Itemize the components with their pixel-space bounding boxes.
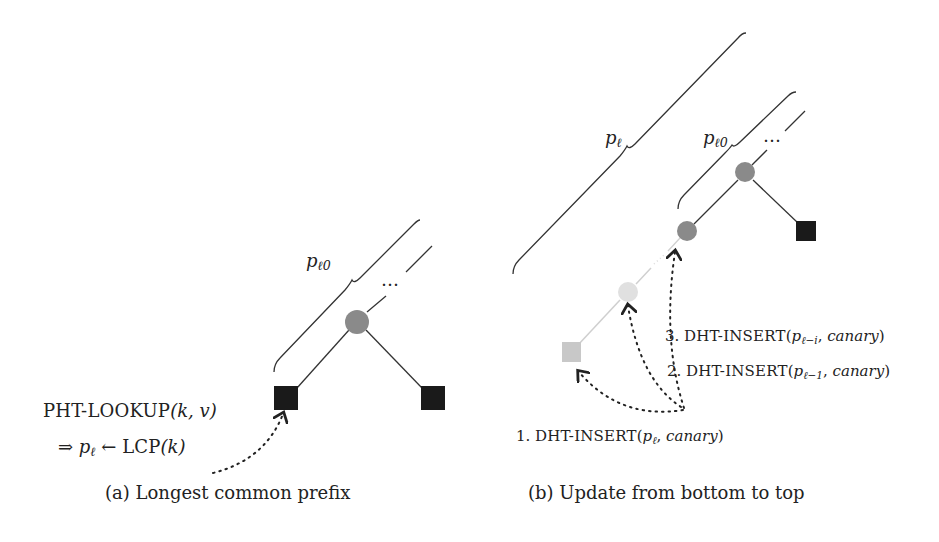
diagram-canvas [0,0,939,542]
step-3-label: 3. DHT-INSERT(pℓ−i, canary) [665,327,885,346]
edge-up-right [752,150,767,165]
lookup-arrow [213,414,283,473]
edge-faded-leaf [578,300,620,345]
brace-p-l0-right [678,92,796,209]
edge-up-top-right [785,111,805,131]
edge-lower-upper [668,238,680,251]
edge-mid [694,180,738,224]
faded-node [618,282,638,302]
edge-faded-dots [654,255,664,264]
ellipsis-right: … [763,125,781,146]
brace-label-p-l0: pℓ0 [306,250,331,274]
lcp-op: ⇒ pℓ ← LCP(k) [58,436,186,460]
edge-left-leaf [297,330,349,388]
lookup-op: PHT-LOOKUP(k, v) [43,400,217,421]
ellipsis-left: … [381,269,399,290]
step-1-label: 1. DHT-INSERT(pℓ, canary) [516,427,724,446]
internal-node-top [735,162,755,182]
step-2-label: 2. DHT-INSERT(pℓ−1, canary) [667,362,890,381]
brace-label-p-l0-right: pℓ0 [703,127,728,151]
brace-p-l0 [274,220,420,372]
leaf-node-left [274,386,298,410]
leaf-node-black [796,221,816,241]
brace-p-l [513,33,746,274]
caption-a: (a) Longest common prefix [105,482,350,503]
internal-node [345,310,369,334]
edge-right-leaf [366,330,422,388]
edge-to-leaf [753,180,798,223]
caption-b: (b) Update from bottom to top [528,482,805,503]
faded-leaf-node [562,342,581,362]
brace-label-p-l: pℓ [605,127,622,151]
edge-up-top [406,246,432,272]
edge-up [367,296,386,312]
internal-node-lower [677,221,697,241]
edge-faded-mid [636,268,651,284]
leaf-node-right [421,386,445,410]
right-tree [513,33,816,412]
